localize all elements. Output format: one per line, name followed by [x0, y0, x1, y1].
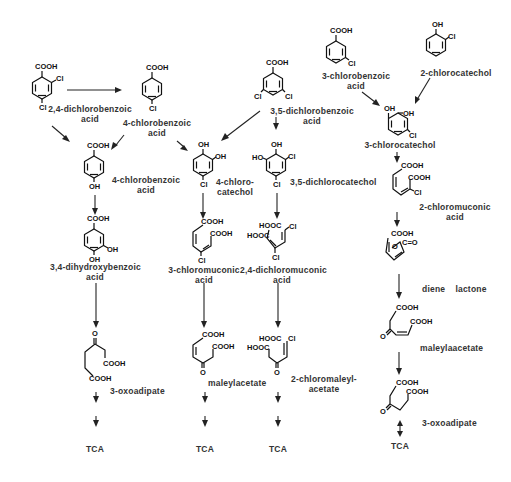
structure-maleylacetate: COOH COOH O [193, 330, 235, 377]
svg-text:OH: OH [271, 140, 282, 149]
label-line: 4-chlorobenzoic [112, 118, 202, 128]
structure-3-oxoadipate-1: O COOH COOH [85, 329, 126, 383]
svg-text:HO: HO [252, 153, 263, 162]
label-4-chlorobenzoic-acid-top: 4-chlorobenzoic acid [112, 118, 202, 138]
svg-text:O: O [380, 332, 386, 341]
svg-text:Cl: Cl [149, 104, 157, 113]
svg-text:Cl: Cl [273, 180, 281, 189]
label-tca-1: TCA [80, 444, 110, 454]
label-line: TCA [80, 444, 110, 454]
svg-text:COOH: COOH [391, 229, 414, 238]
label-3-oxoadipate-1: 3-oxoadipate [110, 386, 165, 396]
label-3-4-dihydroxybenzoic-acid: 3,4-dihydroxybenzoic acid [50, 262, 140, 282]
svg-text:COOH: COOH [266, 58, 289, 67]
svg-text:Cl: Cl [198, 256, 206, 265]
label-line: 2,4-dichloromuconic [240, 265, 324, 275]
structure-3-oxoadipate-2: COOH COOH O [380, 378, 429, 416]
label-2-chloromuconic-acid: 2-chloromuconic acid [418, 202, 492, 222]
label-2-4-dichloromuconic-acid: 2,4-dichloromuconic acid [240, 265, 324, 285]
svg-text:Cl: Cl [272, 253, 280, 262]
svg-text:COOH: COOH [396, 378, 419, 387]
svg-text:O: O [274, 368, 280, 377]
label-2-chloromaleylacetate: 2-chloromaleyl- acetate [288, 374, 360, 394]
structure-2-chloromuconic-acid: COOH COOH Cl [393, 161, 431, 197]
label-line: acid [318, 81, 394, 91]
svg-text:Cl: Cl [285, 92, 293, 101]
structure-2-chloromaleylacetate: HOOC HOOC Cl O [247, 334, 296, 377]
label-tca-2: TCA [190, 444, 220, 454]
label-3-oxoadipate-2: 3-oxoadipate [422, 418, 477, 428]
label-tca-3: TCA [263, 444, 293, 454]
label-maleylaacetate: maleylaacetate [420, 343, 483, 353]
label-line: TCA [190, 444, 220, 454]
svg-text:OH: OH [89, 182, 100, 191]
svg-text:COOH: COOH [410, 317, 433, 326]
structure-2-chlorocatechol: OH Cl [427, 20, 456, 56]
label-line: 3,5-dichlorocatechol [290, 177, 377, 187]
structure-3-chlorocatechol: OH OH Cl [384, 104, 417, 140]
svg-text:OH: OH [432, 20, 443, 29]
svg-text:C=O: C=O [402, 238, 418, 247]
svg-text:COOH: COOH [406, 387, 429, 396]
svg-text:Cl: Cl [414, 188, 422, 197]
svg-text:HOOC: HOOC [259, 334, 282, 343]
label-3-chlorobenzoic-acid: 3-chlorobenzoic acid [318, 71, 394, 91]
svg-text:COOH: COOH [87, 214, 110, 223]
svg-text:COOH: COOH [146, 63, 169, 72]
structure-diene-lactone: COOH O C=O [386, 229, 418, 260]
label-line: acid [106, 185, 186, 195]
svg-text:OH: OH [215, 152, 226, 161]
svg-text:Cl: Cl [288, 334, 296, 343]
svg-text:OH: OH [107, 245, 118, 254]
svg-text:O: O [92, 329, 98, 338]
label-line: acetate [288, 384, 360, 394]
label-line: 3-chloromuconic [164, 265, 244, 275]
svg-text:COOH: COOH [408, 173, 431, 182]
svg-text:COOH: COOH [87, 141, 110, 150]
svg-text:HOOC: HOOC [247, 343, 270, 352]
svg-text:COOH: COOH [210, 229, 233, 238]
label-line: 2,4-dichlorobenzoic [40, 104, 140, 114]
svg-text:O: O [380, 407, 386, 416]
svg-text:Cl: Cl [56, 74, 64, 83]
label-maleylacetate: maleylacetate [208, 378, 266, 388]
label-line: acid [112, 128, 202, 138]
label-line: acid [262, 116, 362, 126]
label-3-5-dichlorocatechol: 3,5-dichlorocatechol [290, 177, 377, 187]
structure-3-chlorobenzoic-acid: COOH Cl [327, 26, 356, 68]
label-4-chlorocatechol: 4-chloro- catechol [210, 177, 260, 197]
label-line: 3-chlorocatechol [362, 140, 438, 150]
label-line: acid [164, 275, 244, 285]
label-line: 4-chloro- [210, 177, 260, 187]
label-line: 2-chloromaleyl- [288, 374, 360, 384]
svg-text:OH: OH [198, 140, 209, 149]
structure-3-chloromuconic-acid: COOH COOH Cl [193, 217, 233, 265]
svg-text:COOH: COOH [212, 342, 235, 351]
label-line: 3-oxoadipate [422, 418, 477, 428]
label-line: maleylaacetate [420, 343, 483, 353]
svg-text:COOH: COOH [396, 303, 419, 312]
svg-text:COOH: COOH [330, 26, 353, 35]
svg-text:Cl: Cl [289, 222, 297, 231]
label-line: acid [418, 212, 492, 222]
label-line: TCA [385, 441, 415, 451]
label-tca-4: TCA [385, 441, 415, 451]
label-line: catechol [210, 187, 260, 197]
svg-text:Cl: Cl [288, 152, 296, 161]
svg-text:COOH: COOH [89, 374, 112, 383]
svg-text:Cl: Cl [254, 92, 262, 101]
svg-text:COOH: COOH [103, 359, 126, 368]
svg-text:Cl: Cl [409, 131, 417, 140]
structure-maleylaacetate: COOH COOH O [380, 303, 433, 341]
label-line: acid [50, 272, 140, 282]
svg-text:HOOC: HOOC [247, 231, 270, 240]
label-line: 2-chlorocatechol [418, 68, 494, 78]
label-line: diene lactone [422, 284, 487, 294]
label-line: TCA [263, 444, 293, 454]
svg-text:COOH: COOH [35, 62, 58, 71]
label-line: 3,5-dichlorobenzoic [262, 106, 362, 116]
label-2-chlorocatechol: 2-chlorocatechol [418, 68, 494, 78]
svg-text:COOH: COOH [401, 161, 424, 170]
label-line: 2-chloromuconic [418, 202, 492, 212]
svg-text:COOH: COOH [202, 330, 225, 339]
